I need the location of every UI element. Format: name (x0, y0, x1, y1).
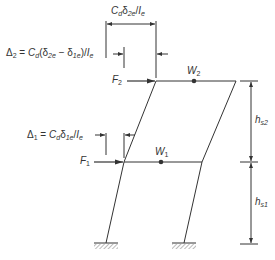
left-support-hatch (94, 244, 118, 249)
story-height-1-label: hs1 (255, 197, 268, 208)
right-support-hatch (172, 244, 196, 249)
story-height-2-label: hs2 (255, 115, 268, 126)
mass-W2-label: W2 (187, 66, 200, 77)
force-F1-label: F1 (80, 156, 90, 167)
force-F2-label: F2 (112, 75, 122, 86)
delta1-label: Δ1 = Cdδ1e/Ie (27, 130, 83, 141)
delta2-label: Δ2 = Cd(δ2e − δ1e)/Ie (6, 48, 93, 59)
mass-W1-label: W1 (155, 147, 168, 158)
mass-W2-dot (192, 79, 197, 84)
top-dimension-label: Cdδ2e/Ie (111, 6, 145, 17)
mass-W1-dot (159, 160, 164, 165)
